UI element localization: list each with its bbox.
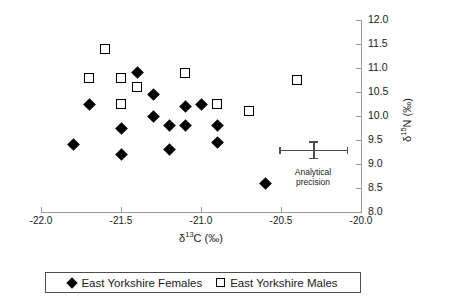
y-tick-label-2: 9.0 <box>368 157 383 170</box>
y-axis-title-element: N (‰) <box>401 98 413 127</box>
y-axis-title-superscript: 15 <box>399 127 408 135</box>
chart-legend: East Yorkshire Females East Yorkshire Ma… <box>45 272 361 293</box>
legend-entry-males[interactable]: East Yorkshire Males <box>216 277 337 289</box>
y-tick-label-1: 8.5 <box>368 181 383 194</box>
x-tick-1 <box>121 207 122 213</box>
data-point-male-7 <box>244 106 254 116</box>
x-axis-title-element: C (‰) <box>194 232 223 244</box>
x-tick-label-1: -21.5 <box>91 215 151 227</box>
data-point-male-4 <box>116 99 126 109</box>
x-tick-0 <box>41 207 42 213</box>
x-tick-2 <box>201 207 202 213</box>
x-axis-title-superscript: 13 <box>185 230 193 239</box>
x-tick-label-2: -21.0 <box>171 215 231 227</box>
y-tick-8 <box>356 20 362 21</box>
x-tick-label-3: -20.5 <box>251 215 311 227</box>
data-point-male-5 <box>180 68 190 78</box>
y-tick-3 <box>356 140 362 141</box>
legend-label-males: East Yorkshire Males <box>230 277 337 289</box>
y-tick-1 <box>356 188 362 189</box>
analytical-precision-caption-line2: precision <box>268 177 358 187</box>
analytical-precision-caption: Analyticalprecision <box>268 167 358 187</box>
y-tick-label-4: 10.0 <box>368 109 388 122</box>
x-tick-label-0: -22.0 <box>11 215 71 227</box>
filled-diamond-icon <box>67 277 78 288</box>
x-axis-title: δ13C (‰) <box>41 230 361 244</box>
y-tick-7 <box>356 44 362 45</box>
analytical-precision-y-cap-1 <box>309 158 318 160</box>
scatter-chart-figure: -22.0-21.5-21.0-20.5-20.0 8.08.59.09.510… <box>0 0 459 303</box>
y-tick-6 <box>356 68 362 69</box>
y-axis-title-delta: δ <box>401 136 413 142</box>
data-point-male-1 <box>84 73 94 83</box>
y-tick-4 <box>356 116 362 117</box>
y-tick-5 <box>356 92 362 93</box>
y-tick-label-0: 8.0 <box>368 205 383 218</box>
open-square-icon <box>216 278 225 287</box>
y-axis-title: δ15N (‰) <box>399 75 413 165</box>
data-point-male-6 <box>212 99 222 109</box>
legend-entry-females[interactable]: East Yorkshire Females <box>68 277 202 289</box>
y-tick-label-7: 11.5 <box>368 37 388 50</box>
y-tick-label-6: 11.0 <box>368 61 388 74</box>
analytical-precision-y-errorbar <box>313 141 315 157</box>
legend-label-females: East Yorkshire Females <box>81 277 202 289</box>
data-point-male-0 <box>100 44 110 54</box>
analytical-precision-x-cap-0 <box>279 147 281 154</box>
data-point-male-8 <box>292 75 302 85</box>
y-tick-0 <box>356 212 362 213</box>
data-point-male-3 <box>132 82 142 92</box>
y-tick-label-8: 12.0 <box>368 13 388 26</box>
analytical-precision-x-cap-1 <box>347 147 349 154</box>
y-tick-label-3: 9.5 <box>368 133 383 146</box>
y-tick-label-5: 10.5 <box>368 85 388 98</box>
data-point-male-2 <box>116 73 126 83</box>
analytical-precision-caption-line1: Analytical <box>268 167 358 177</box>
x-tick-3 <box>281 207 282 213</box>
y-tick-2 <box>356 164 362 165</box>
analytical-precision-y-cap-0 <box>309 141 318 143</box>
